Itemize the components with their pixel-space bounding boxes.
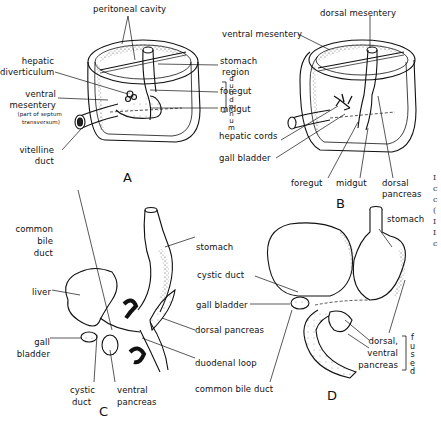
label-ventral-pancreas-c-line1: ventral [117,385,148,395]
label-hepatic-diverticulum-line2: diverticulum [0,67,54,77]
label-stomach-region-line2: region [222,67,249,77]
panel-a-drawing [55,16,218,150]
label-dorsal-ventral-pancreas-line1: dorsal, [350,336,398,346]
label-cystic-duct-d: cystic duct [197,270,244,280]
edge-fragment: c [433,183,441,194]
label-foregut-b: foregut [291,178,323,188]
label-common-bile-duct-c-line3: duct [0,248,53,258]
panel-label-c: C [99,404,108,419]
edge-fragment: c [433,238,441,249]
label-cystic-duct-c-line2: duct [72,397,91,407]
embryology-figure: peritoneal cavity hepatic diverticulum v… [0,0,441,422]
label-ventral-pancreas-c-line2: pancreas [117,397,157,407]
label-vitelline-duct-line2: duct [10,156,54,166]
label-liver-c: liver [32,287,51,297]
label-gall-bladder-d: gall bladder [196,300,248,310]
label-ventral-mesentery-note1: (part of septum [0,111,62,118]
label-dorsal-ventral-pancreas-line2: ventral [350,348,398,358]
edge-fragment: c [433,194,441,205]
label-common-bile-duct-d: common bile duct [195,384,273,394]
panel-b-drawing [276,16,416,178]
label-hepatic-diverticulum-line1: hepatic [10,56,54,66]
label-peritoneal-cavity: peritoneal cavity [93,4,166,14]
edge-fragment: I [433,172,441,183]
edge-fragment: I [433,227,441,238]
panel-label-b: B [336,196,345,211]
label-midgut-a: midgut [220,104,251,114]
label-vitelline-duct-line1: vitelline [10,145,54,155]
label-dorsal-ventral-pancreas-line3: pancreas [350,360,398,370]
label-common-bile-duct-c-line2: bile [0,236,53,246]
label-stomach-region-line1: stomach [220,56,257,66]
label-gall-bladder-b: gall bladder [219,153,271,163]
panel-label-a: A [123,170,132,185]
label-cystic-duct-c-line1: cystic [70,385,95,395]
label-dorsal-pancreas-b-line1: dorsal [382,178,409,188]
panel-c-drawing [50,163,195,382]
panel-label-d: D [327,388,337,403]
label-foregut-a: foregut [220,86,252,96]
label-dorsal-mesentery: dorsal mesentery [320,8,396,18]
label-fused-vertical: fused [409,334,416,377]
label-hepatic-cords: hepatic cords [219,131,278,141]
label-common-bile-duct-c-line1: common [0,224,53,234]
label-midgut-b: midgut [336,178,367,188]
label-ventral-mesentery-line2: mesentery [0,100,56,110]
edge-text-fragments: I c c ( I I c [433,172,441,249]
label-stomach-c: stomach [196,242,233,252]
label-dorsal-pancreas-b-line2: pancreas [382,189,422,199]
label-dorsal-pancreas-c: dorsal pancreas [195,325,264,335]
label-gall-bladder-c-line2: bladder [0,349,50,359]
edge-fragment: ( [433,205,441,216]
label-ventral-mesentery-line1: ventral [10,89,56,99]
label-stomach-d: stomach [387,214,424,224]
label-duodenum-vertical: duodenum [228,76,235,132]
label-ventral-mesentery-note2: transversum) [0,119,60,126]
label-duodenal-loop-c: duodenal loop [195,358,257,368]
edge-fragment: I [433,216,441,227]
label-ventral-mesentery-b: ventral mesentery [222,29,302,39]
label-gall-bladder-c-line1: gall [0,337,50,347]
